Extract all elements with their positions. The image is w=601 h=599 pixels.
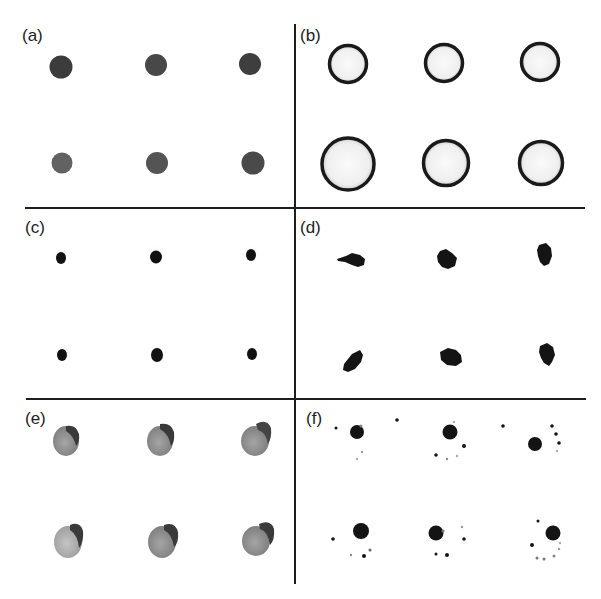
panel-a-dots: [50, 53, 265, 175]
panel-f-spots: [331, 418, 561, 560]
panel-b-rings: [322, 44, 563, 191]
panel-e-droplets: [53, 422, 274, 558]
panel-d-blobs: [337, 243, 555, 372]
figure-panel-grid: (a) (b) (c) (d) (e) (f): [0, 0, 601, 599]
panel-c-dots: [52, 245, 261, 362]
panel-graphics: [0, 0, 601, 599]
